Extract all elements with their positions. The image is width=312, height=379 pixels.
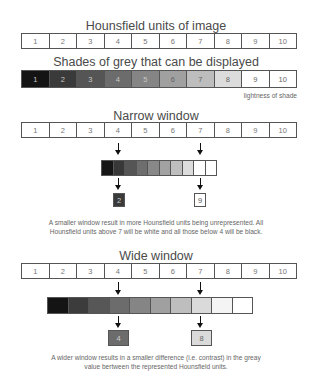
narrow-bar-cell-10 — [205, 160, 218, 176]
hounsfield-cell-7: 7 — [186, 33, 215, 49]
shades-row: 12345678910 — [21, 70, 297, 88]
wide-bar-cell-5 — [129, 297, 151, 314]
arrow-down-icon — [200, 282, 201, 291]
hounsfield-row: 12345678910 — [21, 33, 297, 49]
shade-cell-8: 8 — [214, 70, 243, 88]
hounsfield-cell-1: 1 — [21, 33, 50, 49]
narrow-hounsfield-cell-8: 8 — [214, 122, 243, 138]
shade-cell-7: 7 — [186, 70, 215, 88]
hounsfield-cell-10: 10 — [269, 33, 298, 49]
arrow-down-icon — [200, 143, 201, 151]
narrow-hounsfield-cell-7: 7 — [186, 122, 215, 138]
shades-title: Shades of grey that can be displayed — [0, 55, 312, 69]
shade-cell-2: 2 — [49, 70, 78, 88]
wide-hounsfield-cell-4: 4 — [104, 263, 133, 279]
wide-shade-bar — [47, 297, 253, 314]
narrow-hounsfield-cell-1: 1 — [21, 122, 50, 138]
wide-hounsfield-cell-8: 8 — [214, 263, 243, 279]
wide-result-high: 8 — [191, 330, 212, 346]
hounsfield-cell-4: 4 — [104, 33, 133, 49]
shade-cell-1: 1 — [21, 70, 50, 88]
wide-bar-cell-8 — [191, 297, 213, 314]
wide-bar-cell-1 — [47, 297, 69, 314]
shades-caption: lightness of shade — [220, 92, 297, 101]
wide-hounsfield-cell-2: 2 — [49, 263, 78, 279]
hounsfield-cell-5: 5 — [131, 33, 160, 49]
arrow-down-icon — [118, 282, 119, 291]
narrow-hounsfield-cell-5: 5 — [131, 122, 160, 138]
wide-hounsfield-cell-1: 1 — [21, 263, 50, 279]
arrow-down-icon — [118, 178, 119, 186]
wide-hounsfield-cell-7: 7 — [186, 263, 215, 279]
hounsfield-cell-8: 8 — [214, 33, 243, 49]
wide-result-low: 4 — [108, 330, 129, 346]
wide-bar-cell-9 — [211, 297, 233, 314]
arrow-down-icon — [200, 316, 201, 324]
arrow-down-icon — [118, 143, 119, 151]
arrow-down-icon — [118, 316, 119, 324]
wide-hounsfield-row: 12345678910 — [21, 263, 297, 279]
hounsfield-cell-9: 9 — [241, 33, 270, 49]
wide-hounsfield-cell-6: 6 — [159, 263, 188, 279]
hounsfield-cell-6: 6 — [159, 33, 188, 49]
narrow-window-title: Narrow window — [0, 109, 312, 123]
wide-bar-cell-6 — [150, 297, 172, 314]
hounsfield-title: Hounsfield units of image — [0, 19, 312, 33]
wide-bar-cell-10 — [232, 297, 254, 314]
wide-hounsfield-cell-3: 3 — [76, 263, 105, 279]
hounsfield-cell-3: 3 — [76, 33, 105, 49]
narrow-hounsfield-cell-4: 4 — [104, 122, 133, 138]
wide-window-title: Wide window — [0, 249, 312, 263]
narrow-description: A smaller window result in more Hounsfie… — [0, 219, 312, 236]
narrow-result-high: 9 — [194, 193, 206, 207]
narrow-result-low: 2 — [113, 193, 125, 207]
wide-bar-cell-4 — [109, 297, 131, 314]
narrow-hounsfield-cell-2: 2 — [49, 122, 78, 138]
wide-hounsfield-cell-9: 9 — [241, 263, 270, 279]
wide-bar-cell-3 — [88, 297, 110, 314]
narrow-hounsfield-cell-6: 6 — [159, 122, 188, 138]
shade-cell-5: 5 — [131, 70, 160, 88]
wide-hounsfield-cell-10: 10 — [269, 263, 298, 279]
narrow-hounsfield-cell-10: 10 — [269, 122, 298, 138]
narrow-hounsfield-cell-3: 3 — [76, 122, 105, 138]
narrow-hounsfield-row: 12345678910 — [21, 122, 297, 138]
narrow-shade-bar — [101, 160, 217, 176]
arrow-down-icon — [200, 178, 201, 186]
wide-bar-cell-7 — [170, 297, 192, 314]
shade-cell-6: 6 — [159, 70, 188, 88]
wide-description: A wider window results in a smaller diff… — [0, 354, 312, 371]
hounsfield-cell-2: 2 — [49, 33, 78, 49]
narrow-hounsfield-cell-9: 9 — [241, 122, 270, 138]
wide-hounsfield-cell-5: 5 — [131, 263, 160, 279]
wide-bar-cell-2 — [68, 297, 90, 314]
shade-cell-3: 3 — [76, 70, 105, 88]
shade-cell-10: 10 — [269, 70, 298, 88]
shade-cell-4: 4 — [104, 70, 133, 88]
shade-cell-9: 9 — [241, 70, 270, 88]
